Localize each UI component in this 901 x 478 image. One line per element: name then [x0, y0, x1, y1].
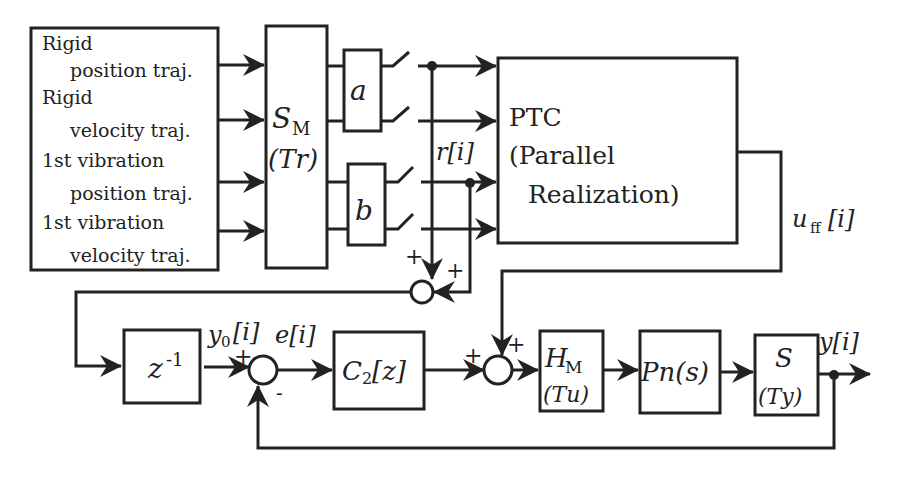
sign-plus: + — [405, 244, 423, 269]
svg-text:[i]: [i] — [233, 318, 260, 346]
sampler-sub: M — [292, 118, 310, 139]
sampler-block: S M (Tr) — [266, 26, 327, 268]
ptc-line2: (Parallel — [509, 141, 615, 170]
gain-b-block: b — [348, 164, 385, 245]
output-sampler-main: S — [775, 343, 793, 373]
gain-a-label: a — [350, 74, 367, 107]
traj-label-4: velocity traj. — [69, 119, 191, 141]
output-signal-label: y[i] — [818, 328, 860, 356]
traj-label-5: 1st vibration — [42, 149, 164, 171]
summing-junction-error — [249, 356, 277, 384]
sign-plus: + — [446, 258, 464, 283]
gain-b-label: b — [355, 194, 373, 227]
traj-label-6: position traj. — [70, 182, 193, 204]
sign-plus: + — [507, 332, 525, 357]
plant-block: Pn(s) — [640, 331, 720, 413]
r-signal-label: r[i] — [436, 138, 475, 166]
controller-block: C 2 [z] — [334, 332, 424, 409]
controller-sub: 2 — [362, 369, 372, 388]
output-sampler-block: S (Ty) — [755, 335, 818, 415]
delay-block: z -1 — [124, 330, 200, 403]
svg-text:[i]: [i] — [828, 205, 855, 233]
traj-label-7: 1st vibration — [42, 211, 164, 233]
uff-signal-label: u ff [i] — [792, 205, 855, 237]
sign-minus: - — [276, 381, 283, 405]
svg-text:u: u — [792, 205, 807, 233]
controller-main: C — [342, 356, 362, 386]
ptc-block: PTC (Parallel Realization) — [498, 58, 737, 243]
svg-text:y: y — [207, 321, 222, 349]
svg-text:0: 0 — [221, 333, 231, 351]
plant-label: Pn(s) — [640, 357, 709, 387]
sampler-main: S — [272, 102, 291, 135]
trajectory-generator-block: Rigid position traj. Rigid velocity traj… — [31, 28, 218, 270]
summing-junction-reference — [411, 281, 433, 303]
traj-label-3: Rigid — [42, 86, 93, 108]
block-diagram: Rigid position traj. Rigid velocity traj… — [0, 0, 901, 478]
ptc-line3: Realization) — [528, 180, 680, 209]
controller-arg: [z] — [372, 356, 407, 386]
summing-junction-control — [484, 356, 512, 384]
sampler-arg: (Tr) — [268, 144, 318, 174]
ptc-line1: PTC — [509, 103, 562, 132]
sign-plus: + — [464, 343, 482, 368]
traj-to-sampler-arrows — [218, 65, 264, 231]
traj-label-8: velocity traj. — [69, 244, 191, 266]
hold-sub: M — [565, 357, 582, 377]
delay-exp: -1 — [166, 349, 184, 370]
delay-main: z — [147, 352, 163, 385]
hold-arg: (Tu) — [543, 382, 589, 407]
traj-label-2: position traj. — [70, 59, 193, 81]
gain-a-block: a — [344, 50, 381, 131]
traj-label-1: Rigid — [42, 32, 93, 54]
output-sampler-arg: (Ty) — [758, 384, 802, 409]
error-signal-label: e[i] — [275, 321, 316, 349]
hold-block: H M (Tu) — [540, 331, 603, 411]
svg-text:ff: ff — [810, 219, 822, 237]
